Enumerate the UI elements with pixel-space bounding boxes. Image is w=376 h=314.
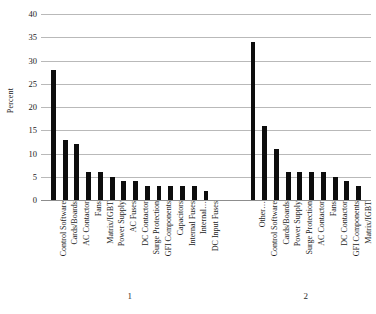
- group-label: 1: [127, 292, 132, 301]
- bar: [157, 186, 162, 200]
- y-axis-title: Percent: [2, 0, 20, 200]
- bar: [51, 70, 56, 200]
- category-label: Cards/Boards: [68, 201, 76, 245]
- bar: [309, 172, 314, 200]
- bar-chart: Percent 0510152025303540 Control Softwar…: [0, 0, 376, 314]
- bar: [133, 181, 138, 200]
- bar: [286, 172, 291, 200]
- bar: [74, 144, 79, 200]
- bar: [356, 186, 361, 200]
- category-label: Internal…: [197, 201, 205, 234]
- bar: [63, 140, 68, 200]
- category-label: GFI Components: [162, 201, 170, 256]
- bar: [98, 172, 103, 200]
- y-tick-label: 10: [29, 149, 38, 158]
- category-label: Control Software: [57, 201, 65, 256]
- plot-area: 0510152025303540: [41, 14, 371, 200]
- y-tick-label: 15: [29, 126, 38, 135]
- category-label: Fans: [92, 201, 100, 216]
- category-label: Other…: [256, 201, 264, 227]
- bar: [333, 177, 338, 200]
- category-label: Control Software: [268, 201, 276, 256]
- bar: [262, 126, 267, 200]
- category-label: Fans: [327, 201, 335, 216]
- category-label: Surge Protection: [303, 201, 311, 254]
- y-tick-label: 25: [29, 80, 38, 89]
- bar: [121, 181, 126, 200]
- bar: [180, 186, 185, 200]
- category-label: Matrix/IGBT: [104, 201, 112, 244]
- category-label: DC Contactor: [139, 201, 147, 246]
- bar: [274, 149, 279, 200]
- category-label: Cards/Boards: [280, 201, 288, 245]
- bar: [251, 42, 256, 200]
- category-label: Internal Fuses: [186, 201, 194, 246]
- bar: [86, 172, 91, 200]
- category-label: AC Fuses: [127, 201, 135, 232]
- y-tick-label: 35: [29, 33, 38, 42]
- y-axis-title-text: Percent: [7, 87, 16, 112]
- category-label: DC Input Fuses: [209, 201, 217, 251]
- bar: [297, 172, 302, 200]
- y-tick-label: 40: [29, 10, 38, 19]
- y-tick-label: 0: [33, 196, 37, 205]
- y-tick-label: 5: [33, 173, 37, 182]
- category-label: Surge Protection: [150, 201, 158, 254]
- bar: [192, 186, 197, 200]
- y-tick-label: 20: [29, 103, 38, 112]
- category-label: Power Supply: [291, 201, 299, 246]
- category-label: Capacitors: [174, 201, 182, 235]
- bar: [204, 191, 209, 200]
- y-tick-label: 30: [29, 56, 38, 65]
- bar: [321, 172, 326, 200]
- bar: [145, 186, 150, 200]
- category-label: Matrix/IGBT: [362, 201, 370, 244]
- bar: [168, 186, 173, 200]
- category-label: Power Supply: [115, 201, 123, 246]
- category-label: GFI Components: [350, 201, 358, 256]
- bar: [344, 181, 349, 200]
- category-label: DC Contactor: [338, 201, 346, 246]
- group-axis-labels: 12: [41, 292, 371, 308]
- bars: [41, 14, 371, 200]
- category-axis-labels: Control SoftwareCards/BoardsAC Contactor…: [41, 201, 371, 289]
- category-label: AC Contactor: [80, 201, 88, 246]
- group-label: 2: [304, 292, 309, 301]
- bar: [110, 177, 115, 200]
- category-label: AC Contactor: [315, 201, 323, 246]
